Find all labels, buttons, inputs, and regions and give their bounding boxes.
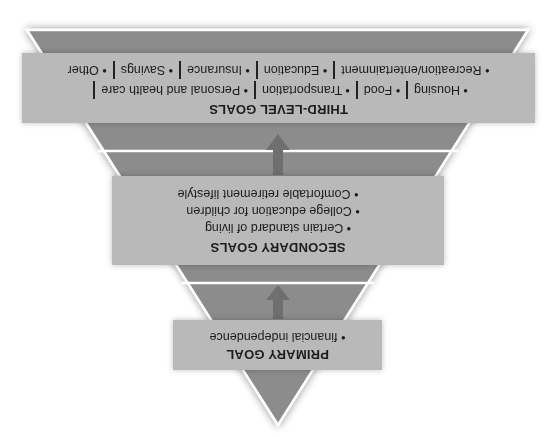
third-goal-food: • Food (358, 83, 406, 97)
divider (179, 61, 181, 79)
third-goal-education: • Education (258, 63, 333, 77)
third-goal-personal-health: • Personal and health care (95, 83, 254, 97)
divider (406, 81, 408, 99)
third-level-goals-box: THIRD-LEVEL GOALS • Housing • Food • Tra… (22, 53, 535, 123)
third-goal-other: • Other (62, 63, 113, 77)
divider (356, 81, 358, 99)
divider (333, 61, 335, 79)
secondary-goal-item: • Certain standard of living (112, 219, 444, 236)
third-goal-savings: • Savings (115, 63, 179, 77)
divider (256, 61, 258, 79)
secondary-goals-title: SECONDARY GOALS (112, 240, 444, 255)
secondary-goal-item: • College education for children (112, 202, 444, 219)
third-level-goals-title: THIRD-LEVEL GOALS (22, 102, 535, 117)
primary-goal-title: PRIMARY GOAL (173, 347, 382, 362)
primary-goal-item: • financial independence (173, 328, 382, 345)
secondary-goals-box: SECONDARY GOALS • Certain standard of li… (112, 176, 444, 265)
third-goal-transportation: • Transportation (256, 83, 356, 97)
divider (113, 61, 115, 79)
third-goal-housing: • Housing (408, 83, 474, 97)
third-goal-recreation: • Recreation/entertainment (335, 63, 495, 77)
goals-pyramid-diagram: PRIMARY GOAL • financial independence SE… (0, 0, 555, 437)
primary-goal-box: PRIMARY GOAL • financial independence (173, 320, 382, 370)
divider (254, 81, 256, 99)
third-level-goals-row-1: • Housing • Food • Transportation • Pers… (22, 81, 545, 99)
secondary-goal-item: • Comfortable retirement lifestyle (112, 185, 444, 202)
third-goal-insurance: • Insurance (181, 63, 256, 77)
third-level-goals-row-2: • Recreation/entertainment • Education •… (22, 61, 535, 79)
divider (93, 81, 95, 99)
